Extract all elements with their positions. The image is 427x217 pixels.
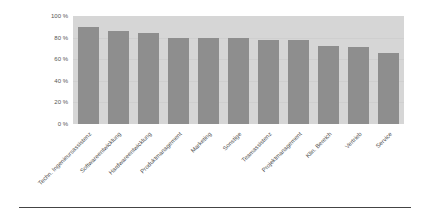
y-tick-label: 40 %: [20, 78, 68, 84]
x-tick-label: Teamassistenz: [240, 131, 272, 163]
bar: [138, 33, 159, 124]
x-tick-label: Marketing: [190, 131, 213, 154]
bar: [288, 40, 309, 124]
bar: [168, 38, 189, 124]
x-tick-label: Sonstige: [222, 131, 243, 152]
footer-divider: [19, 207, 411, 208]
bar: [258, 40, 279, 124]
bar: [78, 27, 99, 124]
bar-chart: 0 %20 %40 %60 %80 %100 % Techn. Ingenieu…: [0, 0, 427, 217]
x-tick-label: Klin. Bereich: [305, 131, 333, 159]
bar: [228, 38, 249, 124]
y-tick-label: 60 %: [20, 56, 68, 62]
x-tick-label: Service: [375, 131, 393, 149]
y-tick-label: 20 %: [20, 99, 68, 105]
y-tick-label: 80 %: [20, 35, 68, 41]
bar: [198, 38, 219, 124]
bar: [108, 31, 129, 124]
bar: [378, 53, 399, 124]
bar: [348, 47, 369, 124]
y-tick-label: 0 %: [20, 121, 68, 127]
x-tick-label: Techn. Ingenieursassistenz: [37, 131, 92, 186]
y-tick-label: 100 %: [20, 13, 68, 19]
x-tick-label: Vertrieb: [344, 131, 363, 150]
bar: [318, 46, 339, 124]
